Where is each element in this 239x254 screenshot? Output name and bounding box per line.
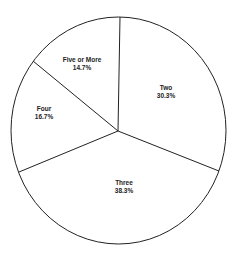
slice-three: Three 38.3% [115,179,134,194]
slice-value-four: 16.7% [35,113,54,120]
slice-label-five-or-more: Five or More [63,56,102,63]
slice-value-two: 30.3% [157,92,176,99]
slice-value-five-or-more: 14.7% [73,64,92,71]
slice-label-three: Three [115,179,133,186]
slice-label-four: Four [37,105,52,112]
pie-chart: Two 30.3% Three 38.3% Four 16.7% Five or… [0,0,239,254]
slice-label-two: Two [160,84,173,91]
slice-four: Four 16.7% [35,105,54,120]
slice-value-three: 38.3% [115,187,134,194]
